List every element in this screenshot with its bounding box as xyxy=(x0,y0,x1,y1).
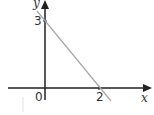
y-axis-label: y xyxy=(33,0,40,9)
y-intercept-label: 3 xyxy=(34,15,42,27)
origin-label: 0 xyxy=(35,91,43,103)
x-axis xyxy=(8,84,152,92)
x-intercept-label: 2 xyxy=(96,91,104,103)
x-axis-label: x xyxy=(141,92,148,104)
graph-canvas xyxy=(0,0,154,115)
y-axis xyxy=(41,0,49,100)
y-axis-arrow-icon xyxy=(41,0,49,9)
